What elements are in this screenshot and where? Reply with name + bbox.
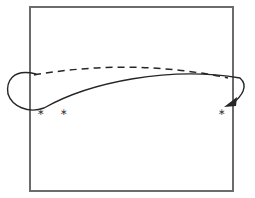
asterisk-marker: ∗ bbox=[37, 107, 45, 117]
grid-diagram: ∗∗∗ bbox=[0, 0, 255, 198]
asterisk-marker: ∗ bbox=[218, 107, 226, 117]
figure-container: ∗∗∗ bbox=[0, 0, 255, 198]
asterisk-marker: ∗ bbox=[60, 107, 68, 117]
